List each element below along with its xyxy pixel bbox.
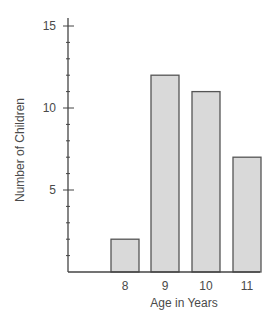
bar-age-11: [233, 157, 261, 272]
x-axis-tick-labels: 891011: [122, 279, 254, 293]
bars: [111, 75, 261, 272]
bar-age-8: [111, 239, 139, 272]
bar-age-9: [151, 75, 179, 272]
y-tick-label: 10: [43, 101, 57, 115]
x-tick-label: 8: [122, 279, 129, 293]
x-tick-label: 9: [162, 279, 169, 293]
x-tick-label: 11: [241, 279, 254, 293]
y-tick-label: 5: [49, 183, 56, 197]
x-axis-title: Age in Years: [150, 296, 217, 310]
x-tick-label: 10: [199, 279, 213, 293]
bar-chart: 51015 891011 Age in Years Number of Chil…: [0, 0, 279, 331]
y-axis-ticks: 51015: [43, 19, 74, 256]
y-axis-title: Number of Children: [13, 98, 27, 202]
bar-age-10: [192, 92, 220, 272]
y-tick-label: 15: [43, 19, 57, 33]
